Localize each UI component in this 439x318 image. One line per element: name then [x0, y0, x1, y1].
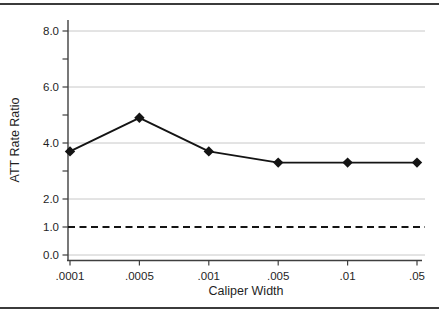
y-tick-label: 2.0: [43, 193, 59, 205]
data-point-marker: [273, 157, 283, 167]
x-tick-label: .0001: [56, 270, 85, 282]
x-tick-labels-layer: .0001.0005.001.005.01.05: [56, 270, 425, 282]
att-rate-ratio-line-chart: 0.01.02.04.06.08.0 .0001.0005.001.005.01…: [0, 0, 439, 318]
figure-container: 0.01.02.04.06.08.0 .0001.0005.001.005.01…: [0, 0, 439, 318]
y-ticks-layer: [63, 31, 69, 255]
data-point-marker: [204, 146, 214, 156]
y-tick-label: 6.0: [43, 81, 59, 93]
data-point-marker: [342, 157, 352, 167]
data-series-layer: [65, 113, 422, 168]
y-tick-label: 1.0: [43, 221, 59, 233]
gridlines-layer: [68, 31, 425, 255]
x-tick-label: .05: [409, 270, 425, 282]
data-line: [70, 118, 417, 163]
x-ticks-layer: [70, 261, 417, 266]
axes-layer: [67, 20, 422, 261]
y-axis-title: ATT Rate Ratio: [8, 97, 22, 182]
x-tick-label: .001: [198, 270, 220, 282]
x-axis-title: Caliper Width: [208, 284, 283, 298]
y-tick-label: 4.0: [43, 137, 59, 149]
data-point-marker: [412, 157, 422, 167]
data-point-marker: [65, 146, 75, 156]
x-tick-label: .0005: [125, 270, 154, 282]
x-tick-label: .01: [340, 270, 356, 282]
y-tick-label: 0.0: [43, 249, 59, 261]
x-tick-label: .005: [267, 270, 289, 282]
y-tick-labels-layer: 0.01.02.04.06.08.0: [43, 25, 59, 261]
data-point-marker: [134, 113, 144, 123]
y-tick-label: 8.0: [43, 25, 59, 37]
